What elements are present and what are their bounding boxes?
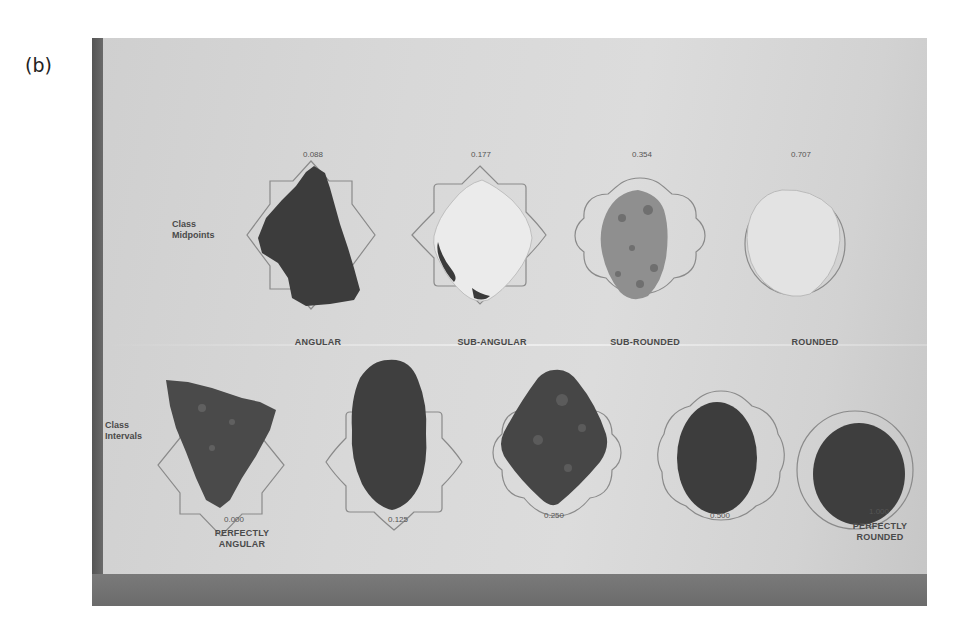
class-name-subangular: SUB-ANGULAR [457, 337, 526, 347]
interval-0250-pebble [501, 370, 607, 505]
class-name-subrounded: SUB-ROUNDED [610, 337, 680, 347]
subangular-pebble [434, 180, 532, 301]
class-name-rounded: ROUNDED [792, 337, 839, 347]
midpoint-value-angular: 0.088 [303, 150, 323, 159]
pebble-illustrations [92, 38, 927, 606]
interval-value-4: 1.000 [869, 507, 889, 516]
midpoint-value-subrounded: 0.354 [632, 150, 652, 159]
row-label-line: Class [172, 219, 215, 230]
row-label-line: Intervals [105, 431, 142, 442]
caption-line: PERFECTLY [853, 521, 907, 532]
row-label-line: Class [105, 420, 142, 431]
caption-perfectly-angular: PERFECTLY ANGULAR [215, 528, 269, 550]
perfectly-angular-pebble [166, 380, 276, 508]
perfectly-rounded-pebble [813, 423, 905, 525]
roundness-chart-photo: 0.088 0.177 0.354 0.707 Class Midpoints … [92, 38, 927, 606]
midpoint-value-rounded: 0.707 [791, 150, 811, 159]
interval-value-0: 0.000 [224, 515, 244, 524]
midpoint-value-subangular: 0.177 [471, 150, 491, 159]
rounded-pebble [747, 190, 840, 296]
interval-value-1: 0.125 [388, 515, 408, 524]
caption-perfectly-rounded: PERFECTLY ROUNDED [853, 521, 907, 543]
interval-0125-pebble [352, 360, 427, 510]
row-label-class-midpoints: Class Midpoints [172, 219, 215, 241]
angular-pebble [258, 166, 360, 306]
row-label-class-intervals: Class Intervals [105, 420, 142, 442]
caption-line: ROUNDED [853, 532, 907, 543]
panel-label: (b) [25, 54, 52, 76]
interval-value-3: 0.500 [710, 511, 730, 520]
interval-value-2: 0.250 [544, 511, 564, 520]
class-name-angular: ANGULAR [295, 337, 341, 347]
row-label-line: Midpoints [172, 230, 215, 241]
interval-0500-pebble [677, 402, 757, 514]
caption-line: PERFECTLY [215, 528, 269, 539]
caption-line: ANGULAR [215, 539, 269, 550]
